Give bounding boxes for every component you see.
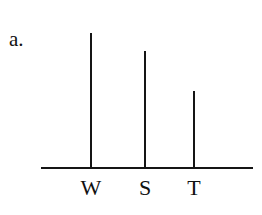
bar-t — [193, 91, 195, 168]
tick-label-w: W — [81, 176, 102, 200]
stick-chart: W S T — [0, 0, 262, 215]
x-axis-baseline — [41, 167, 253, 169]
bar-w — [90, 33, 92, 168]
tick-label-s: S — [139, 176, 151, 200]
tick-label-t: T — [187, 176, 200, 200]
bar-s — [144, 51, 146, 168]
